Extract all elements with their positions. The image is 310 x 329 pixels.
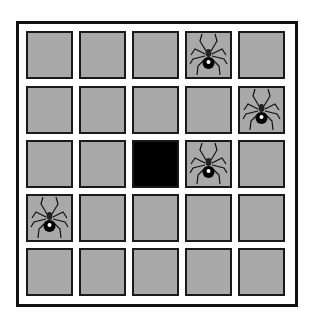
board-cell-4-1[interactable] bbox=[79, 248, 126, 296]
board-cell-4-4[interactable] bbox=[238, 248, 285, 296]
board-cell-0-0[interactable] bbox=[26, 31, 73, 79]
board-cell-4-0[interactable] bbox=[26, 248, 73, 296]
board-cell-2-4[interactable] bbox=[238, 140, 285, 188]
board-cell-1-0[interactable] bbox=[26, 86, 73, 134]
game-board bbox=[16, 21, 298, 307]
board-cell-0-2[interactable] bbox=[132, 31, 179, 79]
board-cell-3-4[interactable] bbox=[238, 194, 285, 242]
board-cell-3-3[interactable] bbox=[185, 194, 232, 242]
board-cell-1-3[interactable] bbox=[185, 86, 232, 134]
board-cell-1-4[interactable] bbox=[238, 86, 285, 134]
board-cell-2-0[interactable] bbox=[26, 140, 73, 188]
board-cell-1-1[interactable] bbox=[79, 86, 126, 134]
board-cell-3-0[interactable] bbox=[26, 194, 73, 242]
board-cell-4-3[interactable] bbox=[185, 248, 232, 296]
board-cell-1-2[interactable] bbox=[132, 86, 179, 134]
board-cell-0-3[interactable] bbox=[185, 31, 232, 79]
board-cell-4-2[interactable] bbox=[132, 248, 179, 296]
board-cell-0-4[interactable] bbox=[238, 31, 285, 79]
spider-icon bbox=[187, 33, 230, 77]
board-cell-3-1[interactable] bbox=[79, 194, 126, 242]
spider-icon bbox=[28, 196, 71, 240]
board-cell-3-2[interactable] bbox=[132, 194, 179, 242]
board-cell-0-1[interactable] bbox=[79, 31, 126, 79]
board-cell-2-2[interactable] bbox=[132, 140, 179, 188]
spider-icon bbox=[187, 142, 230, 186]
board-cell-2-1[interactable] bbox=[79, 140, 126, 188]
spider-icon bbox=[240, 88, 283, 132]
board-cell-2-3[interactable] bbox=[185, 140, 232, 188]
